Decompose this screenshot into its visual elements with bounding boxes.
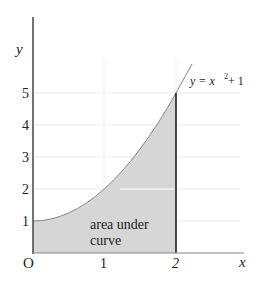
x-tick-2: 2: [172, 256, 179, 271]
svg-text:+ 1: + 1: [228, 74, 244, 88]
chart: y x O 1 2 1 2 3 4 5 y = x 2 + 1 area und…: [0, 0, 260, 282]
origin-label: O: [23, 255, 34, 271]
y-tick-2: 2: [22, 182, 29, 197]
y-tick-5: 5: [22, 86, 29, 101]
area-label-line1: area under: [90, 217, 149, 232]
y-tick-1: 1: [22, 214, 29, 229]
svg-text:y = x: y = x: [189, 74, 215, 88]
x-tick-1: 1: [100, 256, 107, 271]
y-tick-3: 3: [22, 150, 29, 165]
area-label-line2: curve: [90, 233, 121, 248]
y-axis-label: y: [14, 41, 23, 57]
y-tick-4: 4: [22, 118, 29, 133]
x-axis-label: x: [238, 254, 246, 270]
curve-equation-label: y = x 2 + 1: [189, 72, 244, 88]
